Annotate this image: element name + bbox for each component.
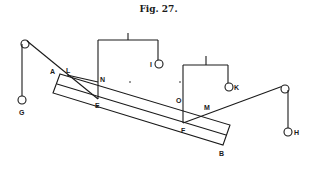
- bracket-i: [67, 33, 158, 99]
- weight-i: [155, 60, 163, 68]
- label-n: N: [100, 76, 105, 83]
- weight-g: [18, 96, 26, 104]
- mechanics-diagram: A L N E O M F B G H I K: [0, 0, 317, 170]
- label-b: B: [219, 150, 224, 157]
- label-a: A: [50, 68, 55, 75]
- dot-marker: [179, 81, 181, 83]
- right-pulley: [183, 85, 289, 128]
- label-m: M: [204, 104, 210, 111]
- label-k: K: [234, 84, 239, 91]
- label-f: F: [181, 127, 186, 134]
- label-l: L: [66, 67, 71, 74]
- label-e: E: [95, 102, 100, 109]
- label-o: O: [176, 97, 182, 104]
- weight-h: [284, 128, 292, 136]
- dot-marker: [129, 81, 131, 83]
- weight-k: [225, 83, 233, 91]
- label-i: I: [150, 61, 152, 68]
- label-h: H: [294, 129, 299, 136]
- left-pulley: [21, 40, 98, 99]
- label-g: G: [19, 109, 25, 116]
